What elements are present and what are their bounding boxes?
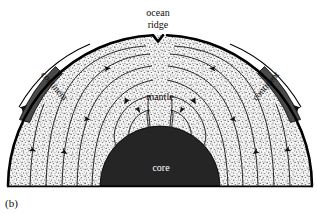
panel-label: (b) [5, 197, 18, 210]
core-label: core [152, 162, 170, 173]
ocean-ridge-label-line1: ocean [146, 7, 169, 18]
mantle-label: mantle [146, 91, 174, 102]
ocean-ridge-label-line2: ridge [148, 19, 169, 30]
mantle-convection-figure: ocean ridge mantle core continent contin… [0, 0, 317, 214]
